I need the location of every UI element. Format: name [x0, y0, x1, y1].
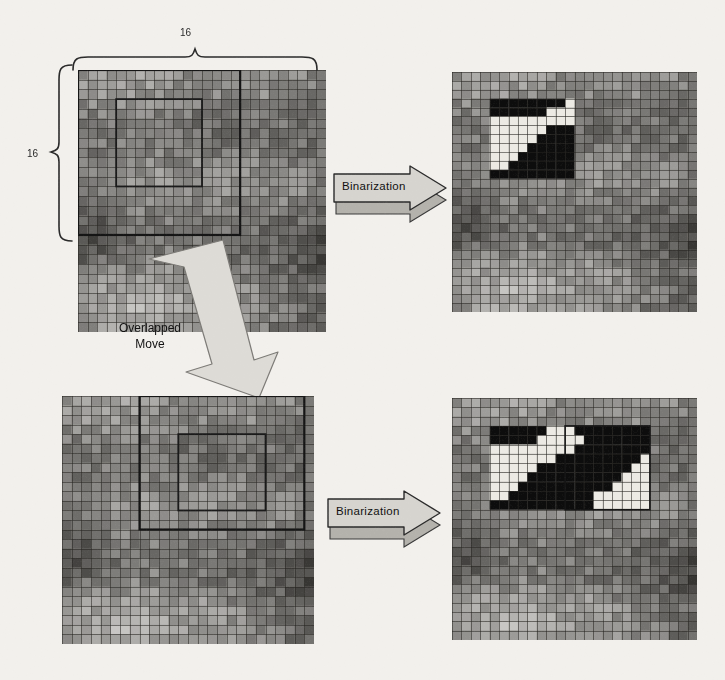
binarization-arrow-bottom: Binarization [326, 483, 444, 549]
overlapped-move-arrow [128, 232, 298, 402]
overlapped-move-line2: Move [135, 337, 164, 351]
width-brace [70, 46, 320, 72]
binarization-arrow-top: Binarization [332, 158, 450, 224]
overlapped-move-line1: Overlapped [119, 321, 181, 335]
bottom-right-binarized-grid [452, 398, 697, 640]
overlapped-move-label: Overlapped Move [95, 320, 205, 352]
figure-canvas: 16 16 Binarization Overlapped Move Binar… [0, 0, 725, 680]
width-label: 16 [180, 27, 191, 38]
binarization-label-top: Binarization [342, 180, 406, 192]
height-brace [48, 62, 74, 247]
binarization-label-bottom: Binarization [336, 505, 400, 517]
height-label: 16 [27, 148, 38, 159]
bottom-left-source-grid [62, 396, 314, 644]
top-right-binarized-grid [452, 72, 697, 312]
